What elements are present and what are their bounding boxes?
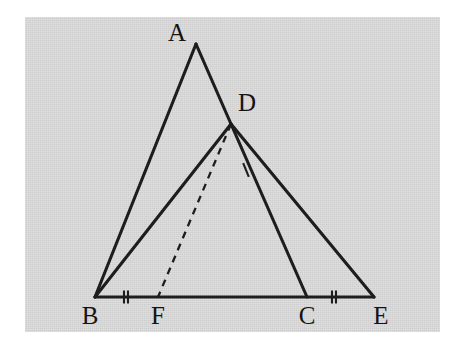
segment-DC [231,124,307,297]
vertex-label-C: C [299,302,316,329]
segment-AD [196,44,231,124]
vertex-label-B: B [82,302,99,329]
geometry-diagram: A B C D E F [0,0,464,348]
tick-AB-single-1 [144,160,150,174]
vertex-labels-group: A B C D E F [82,19,389,329]
figure-frame: A B C D E F [0,0,464,348]
edges-group [95,44,374,297]
segment-DF [158,124,231,297]
vertex-label-F: F [151,302,165,329]
vertex-label-E: E [373,302,388,329]
vertex-label-A: A [168,19,186,46]
segment-DE [231,124,374,297]
tick-marks-group [124,160,336,303]
segment-DB [95,124,231,297]
vertex-label-D: D [238,89,256,116]
